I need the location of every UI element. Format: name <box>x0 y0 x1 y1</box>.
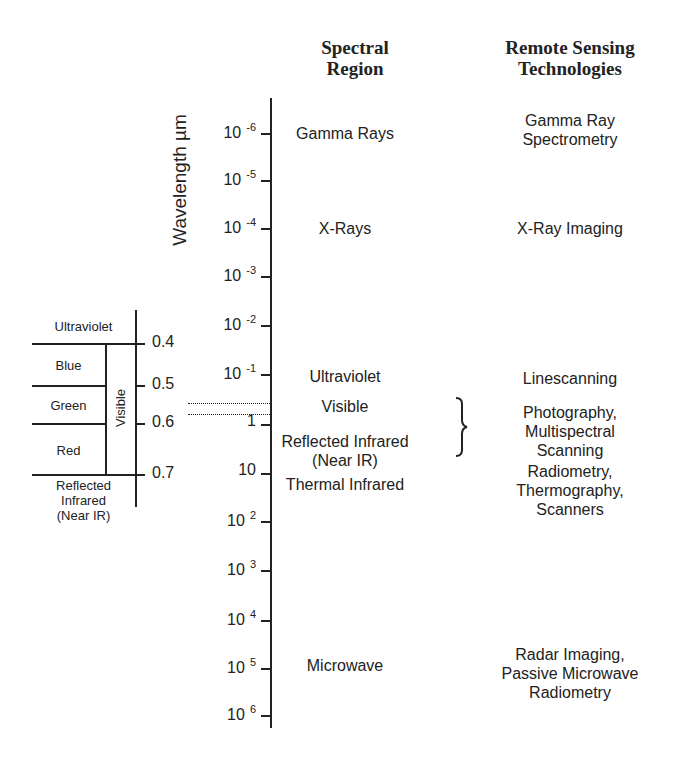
axis-label-text: Wavelength µm <box>169 114 191 246</box>
tick-exponent: -5 <box>246 168 256 180</box>
header-line: Remote Sensing <box>470 37 670 58</box>
tick-exponent: 4 <box>250 608 256 620</box>
axis-tick <box>261 180 271 182</box>
tick-base: 10 <box>227 706 245 723</box>
inset-line-06 <box>32 423 106 425</box>
header-line: Spectral <box>290 37 420 58</box>
header-technologies: Remote Sensing Technologies <box>470 37 670 79</box>
axis-tick-label: 105 <box>227 656 256 677</box>
inset-visible-text: Visible <box>113 389 128 427</box>
tick-exponent: -3 <box>246 264 256 276</box>
axis-tick-label: 10-4 <box>223 216 256 237</box>
spectral-region-label: Visible <box>270 397 420 416</box>
technology-line: X-Ray Imaging <box>470 219 670 238</box>
tick-exponent: -6 <box>246 121 256 133</box>
tick-base: 10 <box>227 611 245 628</box>
technology-label: X-Ray Imaging <box>470 219 670 238</box>
axis-tick <box>261 620 271 622</box>
axis-tick-label: 103 <box>227 558 256 579</box>
technology-line: Thermography, <box>470 481 670 500</box>
tick-base: 10 <box>227 561 245 578</box>
header-spectral-region: Spectral Region <box>290 37 420 79</box>
tick-base: 10 <box>227 659 245 676</box>
axis-tick-label: 10-1 <box>223 362 256 383</box>
visible-dotted-line-lower <box>188 414 270 415</box>
technology-label: Radar Imaging,Passive MicrowaveRadiometr… <box>470 645 670 702</box>
spectral-region-label: Thermal Infrared <box>270 475 420 494</box>
tick-base: 10 <box>238 461 256 478</box>
axis-tick-label: 106 <box>227 703 256 724</box>
tick-exponent: 5 <box>250 656 256 668</box>
inset-value-07: 0.7 <box>152 464 174 482</box>
axis-tick <box>261 276 271 278</box>
inset-band-blue: Blue <box>32 358 105 373</box>
technology-label: Gamma RaySpectrometry <box>470 111 670 149</box>
inset-value-04: 0.4 <box>152 333 174 351</box>
spectral-region-label: Reflected Infrared <box>270 432 420 451</box>
technology-line: Radiometry, <box>470 462 670 481</box>
tick-base: 10 <box>223 316 241 333</box>
brace-icon <box>452 396 472 458</box>
technology-line: Photography, <box>470 403 670 422</box>
technology-line: Spectrometry <box>470 130 670 149</box>
technology-line: Scanners <box>470 500 670 519</box>
inset-line-04 <box>32 343 145 345</box>
technology-line: Linescanning <box>470 369 670 388</box>
technology-line: Radiometry <box>470 683 670 702</box>
inset-band-red: Red <box>32 443 105 458</box>
axis-tick <box>261 424 271 426</box>
technology-line: Passive Microwave <box>470 664 670 683</box>
inset-line-07 <box>32 474 145 476</box>
tick-exponent: 2 <box>250 509 256 521</box>
inset-tick-06 <box>135 423 145 425</box>
axis-tick-label: 10-2 <box>223 313 256 334</box>
axis-tick <box>261 570 271 572</box>
spectral-region-label: Gamma Rays <box>270 124 420 143</box>
technology-label: Radiometry,Thermography,Scanners <box>470 462 670 519</box>
visible-dotted-line-upper <box>188 403 270 404</box>
tick-exponent: -1 <box>246 362 256 374</box>
inset-near-ir: Reflected Infrared (Near IR) <box>32 478 135 523</box>
inset-line-05 <box>32 385 106 387</box>
inset-band-ultraviolet: Ultraviolet <box>32 319 135 334</box>
axis-tick-label: 10 <box>238 461 256 479</box>
tick-base: 10 <box>223 124 241 141</box>
inset-value-06: 0.6 <box>152 413 174 431</box>
tick-exponent: 3 <box>250 558 256 570</box>
spectral-region-label: (Near IR) <box>270 451 420 470</box>
inset-vertical-line <box>135 310 137 507</box>
axis-tick-label: 102 <box>227 509 256 530</box>
spectral-region-label: Microwave <box>270 656 420 675</box>
axis-tick <box>261 521 271 523</box>
axis-tick-label: 10-3 <box>223 264 256 285</box>
axis-tick-label: 104 <box>227 608 256 629</box>
tick-exponent: -4 <box>246 216 256 228</box>
axis-tick-label: 10-5 <box>223 168 256 189</box>
technology-line: Multispectral <box>470 422 670 441</box>
inset-visible-line <box>105 343 107 474</box>
tick-exponent: 6 <box>250 703 256 715</box>
tick-exponent: -2 <box>246 313 256 325</box>
axis-tick-label: 10-6 <box>223 121 256 142</box>
tick-base: 10 <box>223 267 241 284</box>
inset-near-ir-line: Reflected <box>32 478 135 493</box>
inset-value-05: 0.5 <box>152 375 174 393</box>
inset-band-green: Green <box>32 398 105 413</box>
technology-label: Linescanning <box>470 369 670 388</box>
tick-base: 10 <box>223 365 241 382</box>
spectral-region-label: X-Rays <box>270 219 420 238</box>
header-line: Region <box>290 58 420 79</box>
axis-tick <box>261 325 271 327</box>
technology-line: Scanning <box>470 441 670 460</box>
inset-near-ir-line: Infrared <box>32 493 135 508</box>
spectral-region-label: Ultraviolet <box>270 367 420 386</box>
axis-tick <box>261 715 271 717</box>
tick-base: 10 <box>223 171 241 188</box>
inset-near-ir-line: (Near IR) <box>32 508 135 523</box>
header-line: Technologies <box>470 58 670 79</box>
technology-line: Radar Imaging, <box>470 645 670 664</box>
technology-label: Photography,MultispectralScanning <box>470 403 670 460</box>
inset-tick-05 <box>135 385 145 387</box>
technology-line: Gamma Ray <box>470 111 670 130</box>
tick-base: 10 <box>227 512 245 529</box>
